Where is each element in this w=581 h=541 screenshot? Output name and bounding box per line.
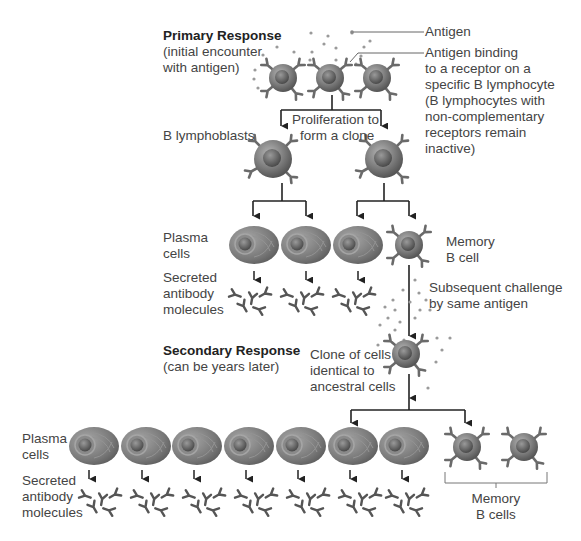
plasma-cell bbox=[69, 427, 119, 465]
clone-label-2: identical to bbox=[310, 363, 375, 379]
binding-label-1: Antigen binding bbox=[425, 45, 518, 61]
b-lymphocyte-binding bbox=[308, 59, 351, 100]
secreted-label-secondary-2: antibody bbox=[22, 489, 73, 505]
antibody-molecules bbox=[229, 288, 271, 315]
antibody-molecules bbox=[183, 489, 225, 516]
antigen-label: Antigen bbox=[425, 24, 471, 40]
binding-label-7: inactive) bbox=[425, 141, 475, 157]
plasma-cells-label-secondary-1: Plasma bbox=[22, 431, 67, 447]
antibody-molecules bbox=[281, 288, 323, 315]
plasma-cell bbox=[328, 427, 378, 465]
memory-b-cells-label-1: Memory bbox=[466, 491, 526, 507]
antibody-molecules bbox=[287, 489, 329, 516]
antibody-molecules bbox=[235, 489, 277, 516]
plasma-cell bbox=[281, 226, 331, 264]
proliferation-label-1: Proliferation to bbox=[292, 112, 379, 128]
b-lymphocyte-3 bbox=[355, 59, 398, 100]
b-lymphocyte-1 bbox=[261, 59, 304, 100]
secreted-label-secondary-3: molecules bbox=[22, 505, 83, 521]
antibody-molecules bbox=[339, 489, 381, 516]
primary-response-title: Primary Response bbox=[163, 28, 282, 44]
primary-response-subtitle-2: with antigen) bbox=[163, 60, 240, 76]
plasma-cell bbox=[224, 427, 274, 465]
plasma-cell bbox=[333, 226, 383, 264]
binding-label-6: receptors remain bbox=[425, 125, 526, 141]
secreted-label-1: Secreted bbox=[163, 270, 217, 286]
antibody-molecules bbox=[131, 489, 173, 516]
antibody-molecules bbox=[333, 288, 375, 315]
plasma-cell bbox=[229, 226, 279, 264]
memory-b-cell-label-1: Memory bbox=[446, 234, 495, 250]
proliferation-label-2: form a clone bbox=[300, 128, 374, 144]
binding-label-3: specific B lymphocyte bbox=[425, 77, 555, 93]
challenge-label-1: Subsequent challenge bbox=[429, 280, 563, 296]
binding-label-2: to a receptor on a bbox=[425, 61, 531, 77]
binding-label-4: (B lymphocytes with bbox=[425, 93, 545, 109]
clone-label-1: Clone of cells bbox=[310, 347, 391, 363]
plasma-cell bbox=[379, 427, 429, 465]
antibody-molecules bbox=[386, 489, 428, 516]
secondary-response-subtitle: (can be years later) bbox=[163, 359, 279, 375]
memory-b-cell bbox=[387, 226, 430, 267]
antibody-molecules bbox=[79, 489, 121, 516]
plasma-cell bbox=[276, 427, 326, 465]
primary-response-subtitle-1: (initial encounter bbox=[163, 44, 262, 60]
memory-b-cell bbox=[502, 428, 545, 469]
plasma-cells-label-1: Plasma bbox=[163, 230, 208, 246]
plasma-cells-label-secondary-2: cells bbox=[22, 447, 49, 463]
plasma-cells-label-2: cells bbox=[163, 246, 190, 262]
memory-b-cell bbox=[445, 428, 488, 469]
binding-label-5: non-complementary bbox=[425, 109, 544, 125]
memory-b-cell-label-2: B cell bbox=[446, 250, 479, 266]
plasma-cell bbox=[121, 427, 171, 465]
memory-b-cells-label-2: B cells bbox=[466, 507, 526, 523]
secreted-label-2: antibody bbox=[163, 286, 214, 302]
clone-label-3: ancestral cells bbox=[310, 379, 396, 395]
b-lymphoblasts-label: B lymphoblasts bbox=[163, 128, 255, 144]
plasma-cell bbox=[172, 427, 222, 465]
challenge-label-2: by same antigen bbox=[429, 296, 528, 312]
secreted-label-3: molecules bbox=[163, 302, 224, 318]
secondary-response-title: Secondary Response bbox=[163, 343, 300, 359]
secreted-label-secondary-1: Secreted bbox=[22, 473, 76, 489]
